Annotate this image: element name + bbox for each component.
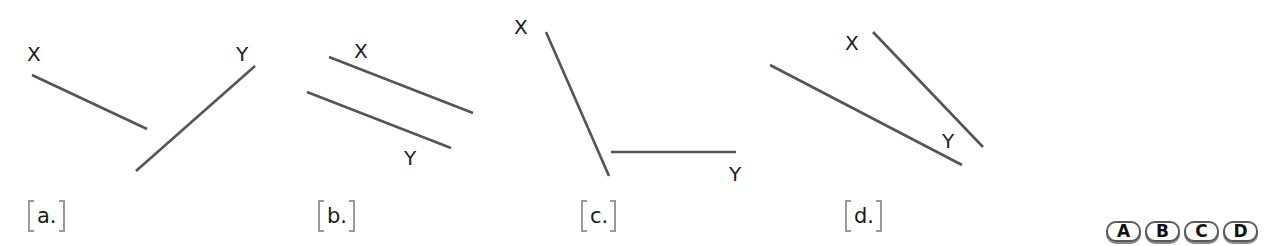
right-bracket-icon: [610, 200, 616, 232]
point-label-x-figure-a: X: [27, 42, 41, 66]
figure-b: X Y: [307, 39, 473, 170]
point-label-y-figure-d: Y: [941, 129, 955, 153]
line-y-figure-a: [136, 66, 255, 171]
figures-canvas: X Y X Y X Y X Y: [0, 0, 1274, 246]
option-label-c: c.: [581, 198, 616, 234]
answer-bubble-b[interactable]: B: [1145, 221, 1180, 242]
point-label-x-figure-b: X: [354, 39, 368, 63]
figure-d: X Y: [770, 31, 983, 165]
point-label-y-figure-b: Y: [403, 146, 417, 170]
option-label-d: d.: [845, 198, 882, 234]
line-x-figure-d: [873, 32, 983, 147]
figure-c: X Y: [514, 15, 742, 186]
answer-bubble-group: A B C D: [1106, 221, 1258, 242]
answer-bubble-c[interactable]: C: [1184, 221, 1219, 242]
option-label-b: b.: [318, 198, 355, 234]
option-label-a: a.: [28, 198, 65, 234]
line-x-figure-a: [32, 75, 147, 129]
point-label-y-figure-a: Y: [235, 42, 249, 66]
left-bracket-icon: [28, 200, 34, 232]
line-x-figure-b: [329, 57, 473, 113]
option-label-text: a.: [37, 204, 57, 228]
right-bracket-icon: [59, 200, 65, 232]
option-label-text: c.: [590, 204, 608, 228]
figure-a: X Y: [27, 42, 255, 171]
line-x-figure-c: [546, 32, 609, 176]
option-label-text: d.: [854, 204, 874, 228]
point-label-y-figure-c: Y: [728, 162, 742, 186]
right-bracket-icon: [349, 200, 355, 232]
option-label-text: b.: [327, 204, 347, 228]
line-y-figure-b: [307, 92, 451, 148]
point-label-x-figure-d: X: [845, 31, 859, 55]
point-label-x-figure-c: X: [514, 15, 528, 39]
answer-bubble-d[interactable]: D: [1223, 221, 1258, 242]
right-bracket-icon: [876, 200, 882, 232]
line-y-figure-d: [770, 65, 962, 165]
answer-bubble-a[interactable]: A: [1106, 221, 1141, 242]
left-bracket-icon: [581, 200, 587, 232]
left-bracket-icon: [845, 200, 851, 232]
left-bracket-icon: [318, 200, 324, 232]
